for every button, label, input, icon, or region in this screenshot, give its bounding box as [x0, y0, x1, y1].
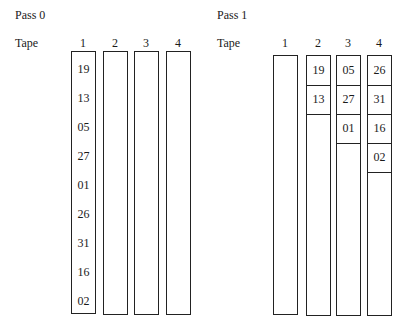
record: 16	[72, 265, 95, 279]
record-cell: 13	[306, 85, 332, 115]
record-cell: 16	[367, 114, 393, 144]
record: 05	[336, 56, 362, 77]
record: 13	[306, 85, 332, 106]
record: 13	[72, 91, 95, 105]
record: 27	[72, 149, 95, 163]
pass-1-tape-1	[273, 55, 298, 315]
pass-1-tape-1-header: 1	[273, 36, 297, 50]
pass-0-tape-2	[103, 51, 128, 315]
record: 31	[72, 236, 95, 250]
record: 02	[367, 143, 393, 164]
record-cell: 31	[367, 85, 393, 115]
record-cell: 19	[306, 56, 332, 86]
record: 02	[72, 294, 95, 308]
pass-0-tape-4-header: 4	[166, 36, 190, 50]
pass-0-tape-3-header: 3	[134, 36, 158, 50]
record-cell: 02	[367, 143, 393, 173]
pass-1-tape-4-header: 4	[367, 36, 391, 50]
pass-1-tape-2-header: 2	[306, 36, 330, 50]
record: 16	[367, 114, 393, 135]
pass-1-tape-3-header: 3	[336, 36, 360, 50]
record: 01	[336, 114, 362, 135]
pass-0-tape-3	[134, 51, 159, 315]
pass-0-tape-1-header: 1	[71, 36, 95, 50]
record: 05	[72, 120, 95, 134]
record: 31	[367, 85, 393, 106]
record-cell: 01	[336, 114, 362, 144]
pass-0-tape-1: 19 13 05 27 01 26 31 16 02	[71, 51, 96, 314]
record: 27	[336, 85, 362, 106]
pass-0-tape-label: Tape	[15, 36, 38, 50]
pass-1-tape-4: 26 31 16 02	[367, 55, 392, 316]
record: 19	[72, 62, 95, 76]
pass-0-tape-2-header: 2	[103, 36, 127, 50]
pass-0-title: Pass 0	[15, 8, 45, 22]
pass-1-tape-3: 05 27 01	[336, 55, 361, 316]
record-cell: 05	[336, 56, 362, 86]
record: 26	[72, 207, 95, 221]
record: 19	[306, 56, 332, 77]
record-cell: 26	[367, 56, 393, 86]
record: 26	[367, 56, 393, 77]
pass-1-tape-label: Tape	[217, 36, 240, 50]
record: 01	[72, 178, 95, 192]
pass-0-tape-4	[166, 51, 191, 315]
pass-1-title: Pass 1	[217, 8, 247, 22]
record-cell: 27	[336, 85, 362, 115]
pass-1-tape-2: 19 13	[306, 55, 331, 316]
